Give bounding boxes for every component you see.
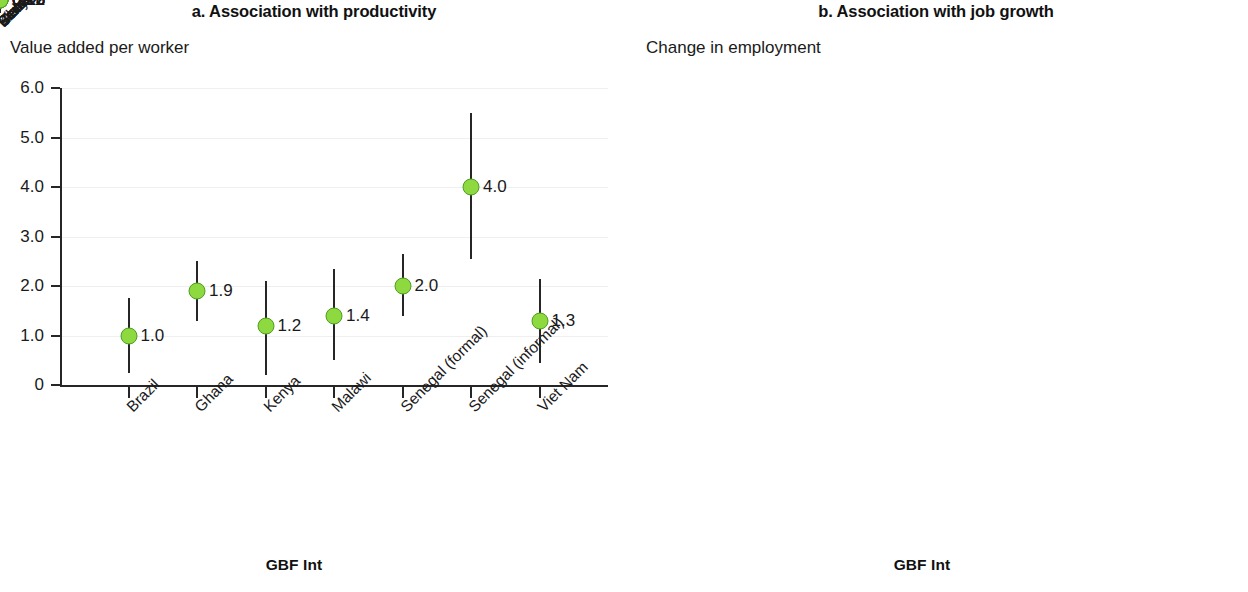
y-tick-label: 3.0 <box>0 227 44 247</box>
y-tick-mark <box>51 186 60 188</box>
y-tick-label: 6.0 <box>0 78 44 98</box>
data-point-value-label: 1.9 <box>209 281 233 301</box>
panel-b: b. Association with job growth Change in… <box>624 0 1248 592</box>
y-tick-label: 2.0 <box>0 276 44 296</box>
data-point-value-label: 2.0 <box>415 276 439 296</box>
y-tick-label: 1.0 <box>0 326 44 346</box>
y-axis-spine <box>60 88 62 385</box>
y-tick-label: 5.0 <box>0 128 44 148</box>
figure-container: a. Association with productivity Value a… <box>0 0 1248 592</box>
data-point-marker[interactable] <box>326 307 343 324</box>
y-tick-label: 0 <box>0 375 44 395</box>
data-point-marker[interactable] <box>463 179 480 196</box>
data-point-value-label: 4.0 <box>483 177 507 197</box>
data-point-marker[interactable] <box>394 278 411 295</box>
y-tick-mark <box>51 236 60 238</box>
y-tick-mark <box>51 137 60 139</box>
panel-a: a. Association with productivity Value a… <box>0 0 624 592</box>
data-point-marker[interactable] <box>531 312 548 329</box>
gridline <box>60 237 608 238</box>
gridline <box>60 88 608 89</box>
panel-a-title: a. Association with productivity <box>2 2 626 21</box>
y-tick-label: 4.0 <box>0 177 44 197</box>
data-point-marker[interactable] <box>257 317 274 334</box>
data-point-value-label: 1.3 <box>552 311 576 331</box>
x-category-label: Brazil <box>123 376 163 416</box>
data-point-value-label: 1.0 <box>141 326 165 346</box>
x-category-label: Malawi <box>328 369 375 416</box>
data-point-marker[interactable] <box>189 282 206 299</box>
y-tick-mark <box>51 285 60 287</box>
gridline <box>60 187 608 188</box>
data-point-value-label: 1.4 <box>346 306 370 326</box>
panel-b-title: b. Association with job growth <box>624 2 1248 21</box>
y-tick-mark <box>51 384 60 386</box>
data-point-marker[interactable] <box>120 327 137 344</box>
y-tick-mark <box>51 335 60 337</box>
panel-a-x-axis-label: GBF Int <box>0 556 606 574</box>
panel-b-x-axis-label: GBF Int <box>610 556 1234 574</box>
data-point-value-label: 1.2 <box>278 316 302 336</box>
data-point-value-label: 0.15 <box>12 0 45 10</box>
panel-b-y-axis-label: Change in employment <box>646 38 821 58</box>
panel-a-plot-area: 01.02.03.04.05.06.0BrazilGhanaKenyaMalaw… <box>60 88 608 385</box>
panel-a-y-axis-label: Value added per worker <box>10 38 189 58</box>
y-tick-mark <box>51 87 60 89</box>
gridline <box>60 138 608 139</box>
